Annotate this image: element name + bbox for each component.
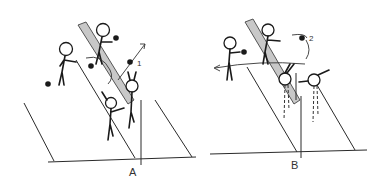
- ball-icon: [88, 63, 94, 69]
- baseline-b: [210, 150, 367, 154]
- player-b4: [299, 70, 329, 122]
- panel-a: 1 A: [24, 22, 196, 178]
- panel-label-a: A: [129, 166, 137, 178]
- player-a1: [59, 43, 76, 86]
- court-line-right-a: [155, 100, 192, 157]
- panel-b: 2 B: [210, 19, 367, 171]
- court-line-mid-a: [76, 60, 135, 158]
- court-line-right-b: [317, 85, 355, 150]
- ball-icon: [45, 81, 51, 87]
- ball-icon: [127, 59, 133, 65]
- player-a4: [102, 92, 124, 140]
- annotation-2: 2: [309, 34, 314, 43]
- baseline-a: [48, 157, 196, 162]
- player-b1: [224, 37, 240, 80]
- panel-label-b: B: [291, 159, 298, 171]
- annotation-1: 1: [137, 59, 142, 68]
- court-line-left-a: [24, 103, 54, 161]
- ball-icon: [241, 49, 247, 55]
- ball-icon: [299, 35, 305, 41]
- diagram-canvas: 1 A: [0, 0, 386, 184]
- ball-icon: [113, 35, 119, 41]
